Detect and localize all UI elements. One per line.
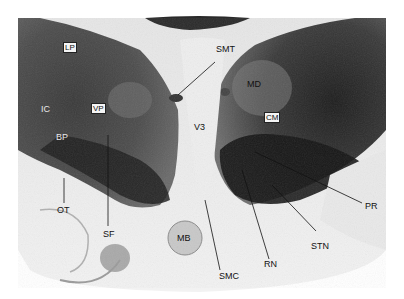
label-mb: MB <box>177 233 191 243</box>
brain-section-image <box>0 0 404 299</box>
label-md: MD <box>247 79 261 89</box>
label-pr: PR <box>365 201 378 211</box>
label-lp: LP <box>63 42 77 53</box>
label-ic: IC <box>41 104 50 114</box>
label-ot: OT <box>57 205 70 215</box>
label-cm: CM <box>264 112 280 123</box>
label-smc: SMC <box>219 271 239 281</box>
label-smt: SMT <box>216 44 235 54</box>
label-bp: BP <box>56 132 68 142</box>
label-stn: STN <box>311 241 329 251</box>
label-rn: RN <box>264 259 277 269</box>
brain-section-figure: LP VP IC BP SMT MD CM V3 OT SF MB SMC RN… <box>0 0 404 299</box>
label-vp: VP <box>91 103 106 114</box>
label-v3: V3 <box>194 122 205 132</box>
label-sf: SF <box>103 229 115 239</box>
